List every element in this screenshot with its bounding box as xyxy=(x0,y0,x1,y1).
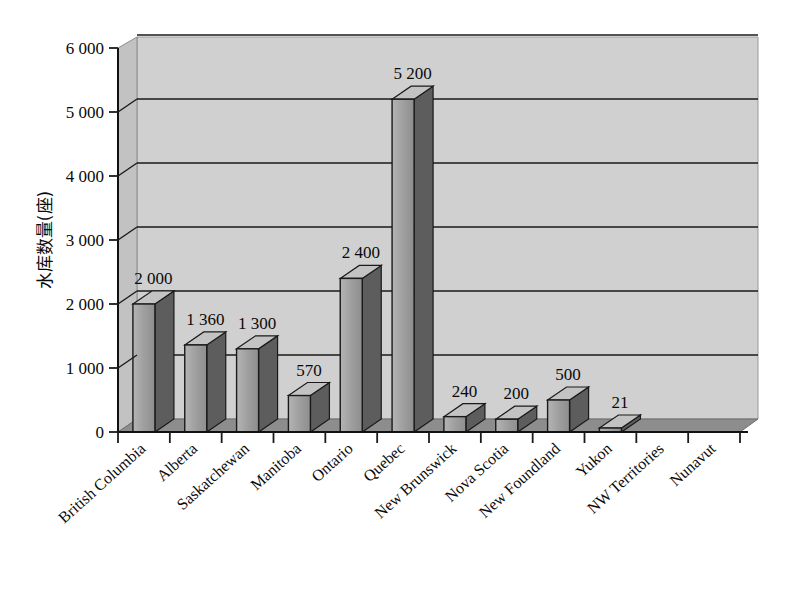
bar-value-label: 200 xyxy=(504,384,530,403)
y-axis-title-text: 水库数量(座) xyxy=(35,191,55,289)
x-axis-category-label: Alberta xyxy=(153,440,200,485)
bar-front-face xyxy=(133,304,155,432)
y-axis-tick-label: 4 000 xyxy=(66,167,104,186)
bar-front-face xyxy=(340,278,362,432)
bar-value-label: 2 000 xyxy=(134,269,172,288)
bar-front-face xyxy=(496,419,518,432)
bar-side-face xyxy=(414,86,433,432)
bar-value-label: 21 xyxy=(611,393,628,412)
x-axis-category-label: Ontario xyxy=(308,440,356,485)
x-axis-category-label: Quebec xyxy=(360,440,408,485)
x-axis-ticks xyxy=(118,432,740,443)
y-axis-tick-label: 6 000 xyxy=(66,39,104,58)
reservoir-count-bar-chart: 01 0002 0003 0004 0005 0006 000 2 0001 3… xyxy=(0,0,789,612)
bar-value-label: 570 xyxy=(296,361,322,380)
chart-canvas: 01 0002 0003 0004 0005 0006 000 2 0001 3… xyxy=(0,0,789,612)
bar-value-label: 5 200 xyxy=(393,64,431,83)
y-axis-tick-label: 5 000 xyxy=(66,103,104,122)
bar-value-label: 240 xyxy=(452,382,478,401)
bar-front-face xyxy=(392,99,414,432)
bar-front-face xyxy=(288,396,310,432)
x-axis-category-labels: British ColumbiaAlbertaSaskatchewanManit… xyxy=(55,439,719,526)
bar-value-label: 1 300 xyxy=(238,314,276,333)
x-axis-category-label: British Columbia xyxy=(55,440,149,527)
bar-front-face xyxy=(185,345,207,432)
bar-front-face xyxy=(548,400,570,432)
bar-front-face xyxy=(237,349,259,432)
bar-side-face xyxy=(155,291,174,432)
y-axis-tick-label: 0 xyxy=(96,423,105,442)
bar-side-face xyxy=(207,332,226,432)
plot-back-wall xyxy=(137,37,758,419)
y-axis-tick-label: 1 000 xyxy=(66,359,104,378)
y-axis-tick-label: 2 000 xyxy=(66,295,104,314)
bar-front-face xyxy=(444,417,466,432)
y-axis-tick-label: 3 000 xyxy=(66,231,104,250)
x-axis-category-label: Yukon xyxy=(573,440,615,481)
bar-value-label: 500 xyxy=(555,365,581,384)
bar-value-label: 1 360 xyxy=(186,310,224,329)
bar-side-face xyxy=(362,265,381,432)
y-axis-title: 水库数量(座) xyxy=(35,191,55,289)
x-axis-category-label: Manitoba xyxy=(247,440,304,494)
x-axis-category-label: Nunavut xyxy=(666,439,719,489)
bar-side-face xyxy=(259,336,278,432)
bar-value-label: 2 400 xyxy=(342,243,380,262)
